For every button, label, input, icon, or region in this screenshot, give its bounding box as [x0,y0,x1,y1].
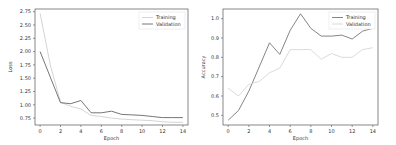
x-tick-label: 2 [59,128,62,134]
y-tick-label: 2.50 [20,22,31,28]
series-line-training [40,13,183,122]
y-tick-label: 1.00 [20,102,31,108]
x-tick-label: 8 [309,128,312,134]
x-tick-label: 0 [39,128,42,134]
y-tick-label: 0.75 [20,115,31,121]
legend-label: Validation [156,21,181,27]
x-tick-label: 4 [268,128,271,134]
y-tick-label: 2.25 [20,35,31,41]
y-tick-label: 0.9 [211,35,219,41]
x-tick-label: 10 [139,128,145,134]
y-tick-label: 1.0 [211,15,219,21]
y-tick-label: 1.25 [20,88,31,94]
x-tick-label: 14 [180,128,186,134]
y-tick-label: 2.75 [20,8,31,14]
x-tick-label: 8 [120,128,123,134]
y-axis-label: Loss [7,61,13,72]
series-line-training [228,14,373,120]
x-axis-label: Epoch [104,135,119,142]
y-tick-label: 2.00 [20,48,31,54]
series-line-validation [40,52,183,118]
loss-chart: 0.751.001.251.501.752.002.252.502.750246… [0,0,198,145]
y-axis-label: Accuracy [200,56,207,79]
loss-chart-svg: 0.751.001.251.501.752.002.252.502.750246… [0,0,198,145]
x-tick-label: 0 [227,128,230,134]
accuracy-chart: 0.50.60.70.80.91.002468101214EpochAccura… [198,0,396,145]
x-tick-label: 4 [79,128,82,134]
x-tick-label: 6 [100,128,103,134]
y-tick-label: 1.50 [20,75,31,81]
x-tick-label: 12 [349,128,355,134]
y-tick-label: 0.5 [211,112,219,118]
y-tick-label: 0.7 [211,73,219,79]
x-axis-label: Epoch [293,135,308,142]
x-tick-label: 2 [247,128,250,134]
x-tick-label: 14 [370,128,376,134]
y-tick-label: 0.8 [211,54,219,60]
accuracy-chart-svg: 0.50.60.70.80.91.002468101214EpochAccura… [198,0,396,145]
y-tick-label: 0.6 [211,93,219,99]
x-tick-label: 12 [159,128,165,134]
legend-label: Validation [346,21,371,27]
x-tick-label: 6 [289,128,292,134]
x-tick-label: 10 [328,128,334,134]
y-tick-label: 1.75 [20,62,31,68]
